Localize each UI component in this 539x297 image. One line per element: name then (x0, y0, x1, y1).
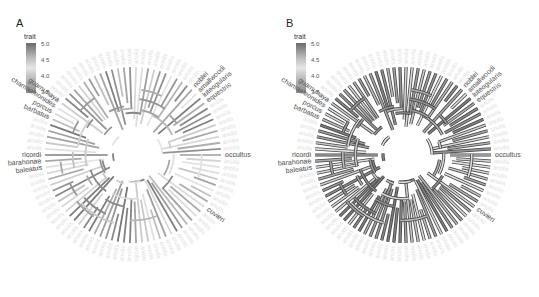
tip-label: occultus (225, 151, 251, 158)
tip-label: ricordi (22, 151, 42, 158)
circular-tree-b: anolisanolisanolisanolisanolisanolisanol… (270, 0, 539, 297)
svg-text:anolis: anolis (134, 246, 141, 262)
svg-text:anolis: anolis (410, 245, 418, 261)
svg-text:anolis: anolis (118, 245, 126, 261)
svg-text:anolis: anolis (127, 48, 134, 64)
svg-text:anolis: anolis (404, 246, 411, 262)
tip-label: ricordi (292, 151, 312, 158)
svg-text:anolis: anolis (396, 246, 403, 262)
svg-text:anolis: anolis (388, 245, 396, 261)
tip-label: occultus (495, 151, 521, 158)
panel-b: B trait 5.0 4.5 4.0 3.5 anolisanolisanol… (270, 0, 539, 297)
svg-text:anolis: anolis (224, 158, 240, 165)
svg-text:anolis: anolis (494, 158, 510, 165)
panel-a: A trait 5.0 4.5 4.0 3.5 anolisanolisanol… (0, 0, 269, 297)
circular-tree-a: anolisanolisanolisanolisanolisanolisanol… (0, 0, 269, 297)
svg-text:anolis: anolis (140, 245, 148, 261)
svg-text:anolis: anolis (397, 48, 404, 64)
svg-text:anolis: anolis (126, 246, 133, 262)
